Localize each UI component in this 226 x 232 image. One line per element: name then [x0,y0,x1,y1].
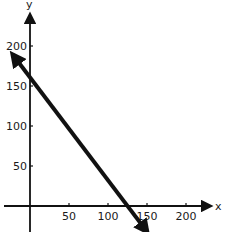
series-line [13,55,147,232]
y-tick-label: 50 [13,160,27,173]
y-tick-label: 150 [6,80,27,93]
x-tick-label: 50 [62,210,76,223]
x-tick-label: 100 [98,210,119,223]
chart: 50100150200 50100150200 x y [0,0,226,232]
y-axis-label: y [26,0,33,11]
x-axis-label: x [215,200,222,213]
y-tick-label: 200 [6,40,27,53]
x-tick-label: 200 [176,210,197,223]
y-tick-label: 100 [6,120,27,133]
